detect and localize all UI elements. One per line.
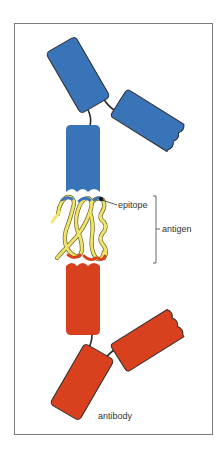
upper-hinge-stem <box>88 110 91 126</box>
antigen-bracket <box>153 196 160 263</box>
upper-right-arm <box>110 89 185 153</box>
antibody-label: antibody <box>98 412 132 421</box>
upper-antibody <box>46 36 186 192</box>
upper-left-arm <box>46 36 110 114</box>
epitope-label: epitope <box>118 201 148 210</box>
upper-stem <box>66 125 100 192</box>
lower-left-arm <box>50 343 114 421</box>
lower-stem <box>66 263 100 335</box>
antigen <box>52 197 106 260</box>
lower-antibody <box>50 263 186 421</box>
antigen-label: antigen <box>162 225 192 234</box>
lower-right-arm <box>110 308 185 372</box>
